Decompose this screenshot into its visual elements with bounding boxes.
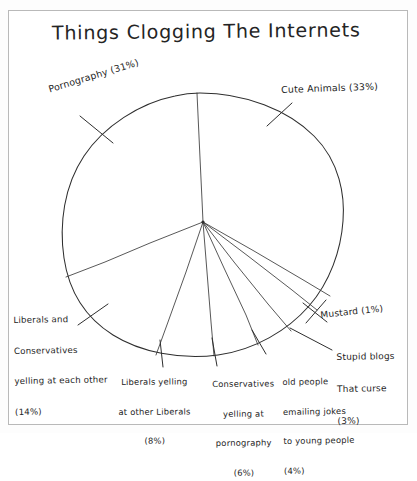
divider-top-vertical [197, 93, 203, 222]
slice-label-line: Stupid blogs [336, 351, 394, 363]
slice-label-line: yelling at each other [14, 374, 107, 386]
slice-label-liberals-and-conservatives: Liberals and Conservatives yelling at ea… [13, 293, 109, 437]
divider-mustard-cuteanimals [203, 222, 330, 296]
slice-label-line: Conservatives [212, 379, 274, 389]
slice-label-line: at other Liberals [118, 407, 190, 418]
divider-libcons-libyelling [156, 222, 203, 355]
slice-label-conservatives-yelling-at-pornography: Conservatives yelling at pornography (6%… [212, 359, 275, 481]
slice-percent: (4%) [284, 466, 355, 477]
divider-oldpeople-stupidblogs [203, 222, 291, 331]
slice-label-line: Liberals and [13, 314, 106, 326]
slice-label-liberals-yelling-at-liberals: Liberals yelling at other Liberals (8%) [118, 357, 191, 467]
slice-label-stupid-blogs: Stupid blogs That curse (3%) [336, 330, 396, 448]
slice-label-line: pornography [213, 439, 275, 449]
slice-percent: (8%) [119, 437, 191, 448]
slice-label-line: Liberals yelling [118, 377, 190, 388]
slice-percent: (3%) [337, 415, 395, 427]
slice-label-line: Conservatives [14, 344, 107, 356]
slice-percent: (14%) [15, 405, 108, 417]
divider-pornography-libcons [66, 222, 203, 277]
pie-center-point [201, 220, 204, 223]
tick-old-people [252, 330, 266, 354]
page-title: Things Clogging The Internets [52, 18, 361, 44]
slice-label-line: That curse [337, 383, 395, 395]
tick-stupid-blogs [290, 328, 332, 350]
slice-label-line: yelling at [212, 409, 274, 419]
tick-cute-animals [267, 103, 292, 126]
divider-stupidblogs-mustard [203, 222, 317, 310]
slice-percent: (6%) [213, 468, 275, 478]
